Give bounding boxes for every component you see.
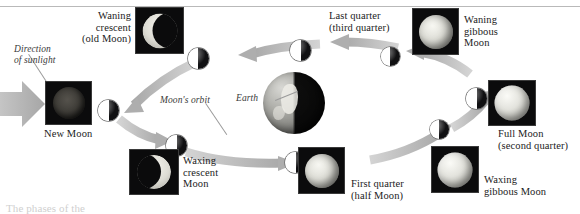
- full-moon-photo: [489, 81, 535, 125]
- orbit-ball-last-quarter: [290, 40, 311, 61]
- orbit-ball-full-moon: [466, 88, 487, 109]
- earth-globe: [263, 72, 325, 134]
- waning-crescent-photo: [136, 8, 183, 53]
- first-quarter-photo: [299, 148, 344, 193]
- waxing-crescent-photo: [130, 150, 178, 194]
- orbit-ball-waning-crescent: [188, 48, 209, 69]
- orbit-ball-new-moon: [98, 100, 119, 121]
- waning-crescent-label: Waning crescent (old Moon): [57, 10, 131, 45]
- new-moon-label: New Moon: [44, 128, 92, 140]
- figure-caption-fragment: The phases of the: [6, 203, 85, 214]
- earth-label: Earth: [236, 93, 258, 104]
- orbit-ball-waning-gibbous: [381, 47, 400, 66]
- new-moon-photo: [46, 82, 91, 124]
- waning-crescent-disc: [142, 13, 177, 48]
- last-quarter-label: Last quarter (third quarter): [329, 10, 390, 33]
- full-moon-label: Full Moon (second quarter): [498, 128, 568, 151]
- moons-orbit-label: Moon's orbit: [160, 95, 210, 106]
- orbit-ball-waxing-gibbous: [430, 120, 449, 139]
- first-quarter-label: First quarter (half Moon): [351, 178, 404, 201]
- waxing-gibbous-disc: [438, 152, 473, 187]
- waning-gibbous-photo: [413, 9, 458, 54]
- waning-gibbous-disc: [419, 15, 453, 49]
- new-moon-disc: [53, 87, 85, 119]
- lunar-phase-diagram: Direction of sunlight: [0, 0, 580, 214]
- waxing-crescent-label: Waxing crescent Moon: [183, 155, 218, 190]
- waxing-gibbous-photo: [432, 147, 478, 192]
- full-moon-disc: [495, 86, 530, 121]
- waxing-gibbous-label: Waxing gibbous Moon: [484, 174, 546, 197]
- waning-gibbous-label: Waning gibbous Moon: [464, 14, 498, 49]
- earth-continent-shape-2: [273, 106, 285, 120]
- first-quarter-disc: [305, 154, 339, 188]
- waxing-crescent-disc: [137, 155, 171, 189]
